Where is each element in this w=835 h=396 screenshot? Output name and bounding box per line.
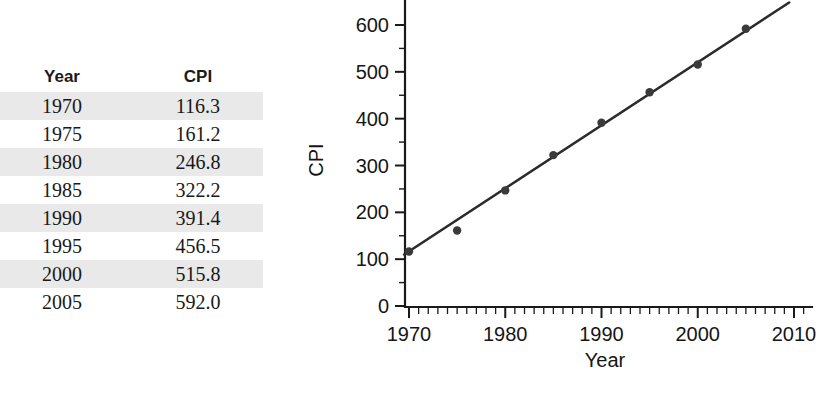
cell-cpi: 456.5 (150, 232, 246, 260)
data-point (645, 88, 653, 96)
cell-cpi: 116.3 (150, 92, 246, 120)
cell-cpi: 246.8 (150, 148, 246, 176)
x-tick-label: 2010 (772, 323, 817, 345)
chart-svg: 0100200300400500600 19701980199020002010… (300, 0, 835, 396)
x-tick-label: 1980 (483, 323, 528, 345)
cell-cpi: 391.4 (150, 204, 246, 232)
table-row: 1975 161.2 (0, 120, 263, 148)
cell-year: 1970 (16, 92, 108, 120)
cell-cpi: 515.8 (150, 260, 246, 288)
x-axis-tick-labels: 19701980199020002010 (387, 323, 817, 345)
cell-year: 1995 (16, 232, 108, 260)
y-tick-label: 600 (356, 14, 389, 36)
data-point (501, 186, 509, 194)
table-row: 1995 456.5 (0, 232, 263, 260)
x-tick-label: 1990 (579, 323, 624, 345)
cell-year: 1985 (16, 176, 108, 204)
cell-year: 1975 (16, 120, 108, 148)
cpi-scatter-chart: 0100200300400500600 19701980199020002010… (300, 0, 835, 396)
table-row: 1985 322.2 (0, 176, 263, 204)
y-tick-label: 200 (356, 201, 389, 223)
data-point (453, 226, 461, 234)
cpi-figure-page: Year CPI 1970 116.3 1975 161.2 1980 246.… (0, 0, 835, 396)
data-point (742, 25, 750, 33)
x-tick-label: 2000 (676, 323, 721, 345)
table-row: 2005 592.0 (0, 288, 263, 316)
cell-year: 2005 (16, 288, 108, 316)
regression-trendline (404, 3, 789, 255)
chart-axes (405, 0, 812, 307)
x-tick-label: 1970 (387, 323, 432, 345)
data-point (549, 151, 557, 159)
y-axis-tick-labels: 0100200300400500600 (356, 14, 389, 317)
y-axis-ticks (395, 25, 405, 306)
table-row: 2000 515.8 (0, 260, 263, 288)
table-header-row: Year CPI (0, 62, 263, 92)
trendline-segment (404, 3, 789, 255)
cell-cpi: 592.0 (150, 288, 246, 316)
cell-year: 1990 (16, 204, 108, 232)
cell-year: 1980 (16, 148, 108, 176)
y-axis-title: CPI (305, 143, 327, 176)
table-row: 1990 391.4 (0, 204, 263, 232)
column-header-year: Year (16, 62, 108, 92)
x-axis-ticks (409, 307, 804, 318)
y-tick-label: 100 (356, 248, 389, 270)
y-tick-label: 400 (356, 108, 389, 130)
data-point (405, 247, 413, 255)
column-header-cpi: CPI (150, 62, 246, 92)
table-row: 1970 116.3 (0, 92, 263, 120)
data-point (597, 118, 605, 126)
cell-cpi: 322.2 (150, 176, 246, 204)
cell-cpi: 161.2 (150, 120, 246, 148)
x-axis-title: Year (585, 349, 626, 371)
cell-year: 2000 (16, 260, 108, 288)
y-tick-label: 500 (356, 61, 389, 83)
table-row: 1980 246.8 (0, 148, 263, 176)
data-point (694, 60, 702, 68)
y-tick-label: 300 (356, 155, 389, 177)
y-tick-label: 0 (378, 295, 389, 317)
cpi-data-table: Year CPI 1970 116.3 1975 161.2 1980 246.… (0, 62, 266, 316)
